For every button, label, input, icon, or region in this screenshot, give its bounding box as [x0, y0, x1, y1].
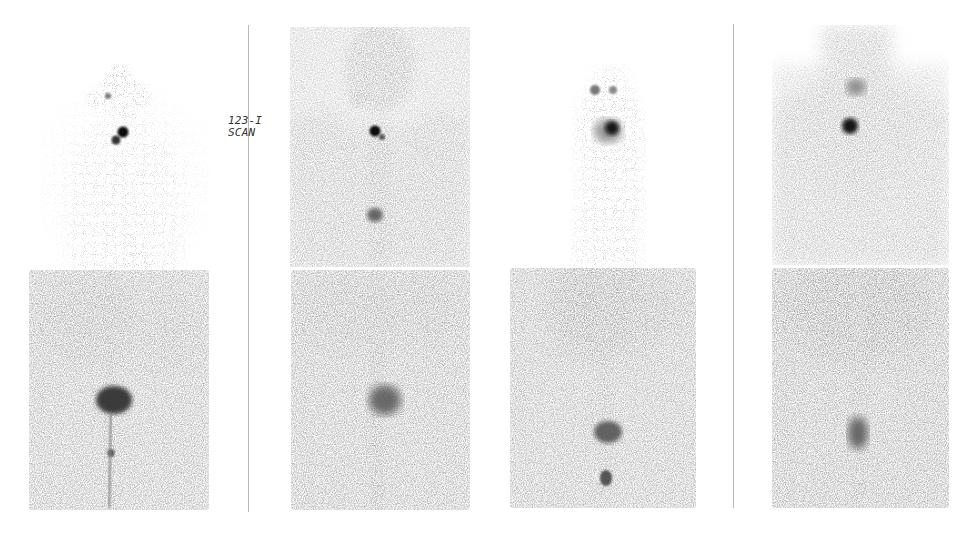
scan-2-upper-image — [290, 27, 470, 267]
scintigraphy-figure: 123-I SCAN — [0, 0, 973, 535]
scan-label: 123-I SCAN — [228, 115, 262, 139]
scan-4-lower-image — [772, 268, 949, 508]
scan-3-upper-image — [550, 55, 670, 270]
divider-left — [248, 25, 249, 512]
scan-label-line-2: SCAN — [228, 127, 262, 139]
scan-1-lower-image — [29, 270, 209, 510]
divider-right — [733, 24, 734, 508]
scan-1-upper-image — [30, 30, 220, 270]
scan-2-lower-image — [291, 270, 470, 510]
scan-4-upper-image — [772, 25, 949, 265]
scan-3-lower-image — [510, 268, 696, 508]
